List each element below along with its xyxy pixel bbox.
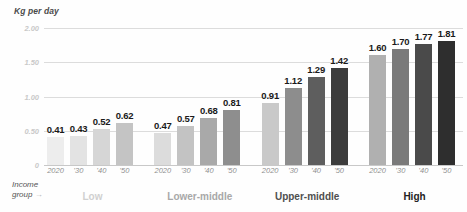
bar-value-label: 1.60 [369, 42, 387, 53]
bar-slot: 1.70 [389, 28, 412, 165]
group-label-high: High [366, 188, 463, 204]
bar-slot: 0.68 [197, 28, 220, 165]
bar-value-label: 0.43 [70, 123, 88, 134]
bar-slot: 0.57 [174, 28, 197, 165]
x-axis-tick: 2020 [151, 166, 174, 179]
bar-value-label: 0.91 [261, 90, 279, 101]
x-axis-tick: 2020 [259, 166, 282, 179]
bar-group-lower-middle: 0.470.570.680.81 [151, 28, 248, 165]
income-group-line2: group [12, 190, 32, 199]
bar-value-label: 1.29 [307, 64, 325, 75]
bar-slot: 0.47 [151, 28, 174, 165]
bar[interactable]: 0.41 [47, 137, 64, 165]
x-axis-tick: '30 [174, 166, 197, 179]
y-axis-tick: 1.50 [24, 58, 39, 67]
y-axis-tick: 0 [35, 161, 39, 170]
group-label-low: Low [44, 188, 141, 204]
bar-value-label: 0.41 [47, 124, 65, 135]
x-axis-tick: '50 [328, 166, 351, 179]
bar-value-label: 1.12 [284, 75, 302, 86]
income-group-axis-label: Income group → [12, 180, 43, 200]
bar[interactable]: 0.52 [93, 129, 110, 165]
bar-value-label: 0.81 [223, 97, 241, 108]
bar-slot: 0.91 [259, 28, 282, 165]
x-axis-tick: '50 [113, 166, 136, 179]
bar-slot: 1.42 [328, 28, 351, 165]
x-axis-tick: '30 [389, 166, 412, 179]
bar-value-label: 1.77 [415, 31, 433, 42]
y-axis-title: Kg per day [14, 6, 59, 16]
bar[interactable]: 0.91 [262, 103, 279, 165]
x-tick-group: 2020'30'40'50 [366, 166, 463, 179]
bar-value-label: 0.68 [200, 105, 218, 116]
x-axis-tick: 2020 [366, 166, 389, 179]
x-axis-tick: '40 [197, 166, 220, 179]
x-axis-tick: '30 [282, 166, 305, 179]
bar-slot: 1.29 [305, 28, 328, 165]
bar[interactable]: 0.47 [154, 133, 171, 165]
x-axis-tick: '50 [220, 166, 243, 179]
bar[interactable]: 1.70 [392, 49, 409, 165]
bar[interactable]: 0.43 [70, 136, 87, 165]
bar[interactable]: 1.77 [415, 44, 432, 165]
x-axis-tick-labels: 2020'30'40'502020'30'40'502020'30'40'502… [44, 166, 463, 179]
y-axis-tick: 2.00 [24, 24, 39, 33]
plot-area: 2.001.501.000.500 0.410.430.520.620.470.… [44, 28, 463, 165]
x-axis-tick: '50 [435, 166, 458, 179]
bar[interactable]: 0.57 [177, 126, 194, 165]
bar-value-label: 1.81 [438, 28, 456, 39]
x-tick-group: 2020'30'40'50 [151, 166, 248, 179]
bar[interactable]: 1.42 [331, 68, 348, 165]
bar-slot: 1.77 [412, 28, 435, 165]
bar-slot: 1.60 [366, 28, 389, 165]
x-axis-tick: '30 [67, 166, 90, 179]
bar-value-label: 0.62 [116, 110, 134, 121]
y-axis-tick: 0.50 [24, 126, 39, 135]
bar[interactable]: 0.62 [116, 123, 133, 165]
bar-value-label: 1.70 [392, 36, 410, 47]
x-axis-tick: '40 [90, 166, 113, 179]
x-axis-tick: 2020 [44, 166, 67, 179]
group-labels: LowLower-middleUpper-middleHigh [44, 188, 463, 204]
bar-value-label: 0.52 [93, 116, 111, 127]
bar-group-low: 0.410.430.520.62 [44, 28, 141, 165]
bar[interactable]: 1.60 [369, 55, 386, 165]
bar[interactable]: 0.68 [200, 118, 217, 165]
bar[interactable]: 0.81 [223, 110, 240, 165]
bar-value-label: 0.47 [154, 120, 172, 131]
bar[interactable]: 1.12 [285, 88, 302, 165]
bar-slot: 0.52 [90, 28, 113, 165]
x-tick-group: 2020'30'40'50 [44, 166, 141, 179]
bar-group-upper-middle: 0.911.121.291.42 [259, 28, 356, 165]
bar-groups: 0.410.430.520.620.470.570.680.810.911.12… [44, 28, 463, 165]
group-label-upper-middle: Upper-middle [259, 188, 356, 204]
bar-slot: 0.41 [44, 28, 67, 165]
bar-value-label: 0.57 [177, 113, 195, 124]
bar-slot: 0.62 [113, 28, 136, 165]
x-tick-group: 2020'30'40'50 [259, 166, 356, 179]
bar-slot: 1.12 [282, 28, 305, 165]
bar[interactable]: 1.29 [308, 77, 325, 165]
bar-value-label: 1.42 [330, 55, 348, 66]
x-axis-tick: '40 [305, 166, 328, 179]
bar-slot: 0.81 [220, 28, 243, 165]
bar-chart: Kg per day 2.001.501.000.500 0.410.430.5… [0, 0, 467, 212]
bar-slot: 0.43 [67, 28, 90, 165]
bar-slot: 1.81 [435, 28, 458, 165]
bar-group-high: 1.601.701.771.81 [366, 28, 463, 165]
y-axis-tick: 1.00 [24, 92, 39, 101]
bar[interactable]: 1.81 [438, 41, 455, 165]
income-group-line1: Income [12, 180, 38, 189]
group-label-lower-middle: Lower-middle [151, 188, 248, 204]
x-axis-tick: '40 [412, 166, 435, 179]
arrow-icon: → [35, 190, 43, 199]
